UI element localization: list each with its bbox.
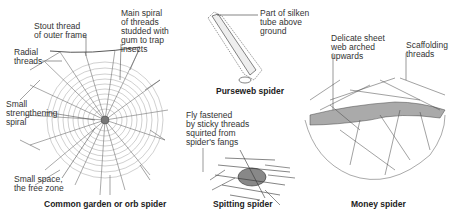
label-main-spiral: Main spiral of threads studded with gum … bbox=[121, 9, 169, 54]
label-silken-tube: Part of silken tube above ground bbox=[260, 9, 309, 36]
caption-money-spider: Money spider bbox=[351, 199, 406, 209]
caption-purseweb-spider: Purseweb spider bbox=[216, 86, 284, 96]
label-strengthening-spiral: Small strengthening spiral bbox=[6, 100, 58, 127]
caption-orb-spider: Common garden or orb spider bbox=[44, 199, 166, 209]
spitting-spider-illustration bbox=[203, 148, 295, 205]
label-scaffolding-threads: Scaffolding threads bbox=[406, 41, 448, 59]
purseweb-illustration bbox=[208, 12, 262, 83]
caption-spitting-spider: Spitting spider bbox=[213, 199, 273, 209]
label-delicate-sheet: Delicate sheet web arched upwards bbox=[331, 34, 385, 61]
money-spider-illustration bbox=[305, 53, 445, 180]
label-fly-fastened: Fly fastened by sticky threads squirted … bbox=[186, 111, 249, 147]
label-outer-frame: Stout thread of outer frame bbox=[34, 22, 87, 40]
label-free-zone: Small space, the free zone bbox=[14, 175, 64, 193]
label-radial-threads: Radial threads bbox=[14, 48, 42, 66]
